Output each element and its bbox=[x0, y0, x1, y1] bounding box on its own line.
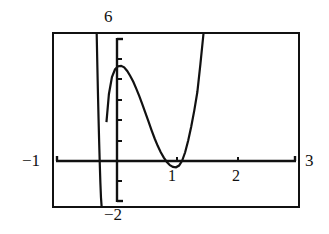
y-max-label: 6 bbox=[104, 8, 113, 25]
x-tick-label-2: 2 bbox=[232, 168, 240, 184]
x-tick-label-1: 1 bbox=[168, 168, 176, 184]
x-max-label: 3 bbox=[305, 152, 314, 169]
y-min-label: −2 bbox=[104, 206, 122, 223]
calculator-screen-frame bbox=[52, 32, 300, 208]
graph-figure: 6 −2 −1 3 1 2 bbox=[0, 0, 329, 234]
x-min-label: −1 bbox=[22, 152, 40, 169]
